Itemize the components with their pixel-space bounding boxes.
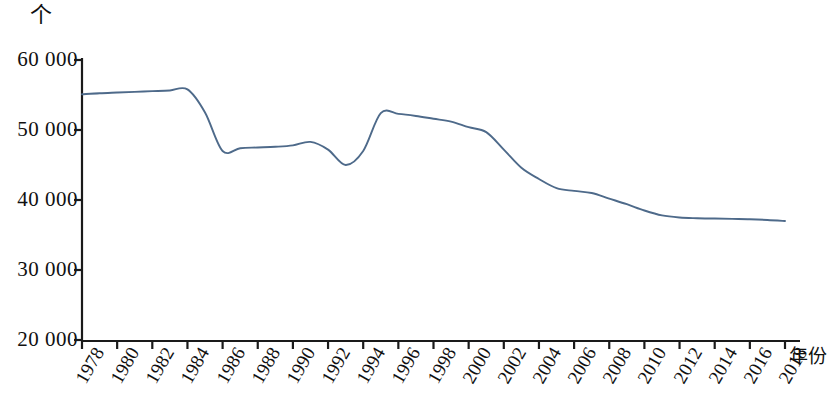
line-chart: 个 年份 20 00030 00040 00050 00060 000 1978… (0, 0, 837, 402)
data-series-line (82, 88, 785, 221)
axes (77, 58, 800, 341)
plot-area (0, 0, 837, 402)
y-axis-ticks (74, 60, 82, 340)
x-axis-ticks (82, 341, 785, 349)
